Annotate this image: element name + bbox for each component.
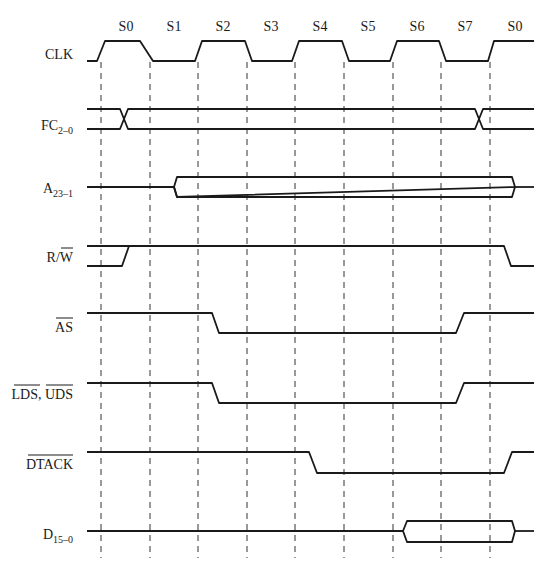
fc-waveform [87, 109, 534, 129]
data-waveform [87, 521, 534, 542]
clk-waveform [87, 41, 534, 61]
rw-waveform [87, 246, 534, 266]
state-label: S7 [458, 19, 473, 34]
dtack-waveform [87, 452, 534, 473]
state-label: S0 [508, 19, 523, 34]
signal-label-rw: R/W [47, 250, 74, 265]
state-label: S0 [119, 19, 134, 34]
state-label: S2 [216, 19, 231, 34]
state-labels: S0 S1 S2 S3 S4 S5 S6 S7 S0 [119, 19, 523, 34]
signal-label-dtack: DTACK [26, 457, 73, 472]
address-waveform [87, 177, 534, 197]
state-label: S5 [361, 19, 376, 34]
lds-uds-waveform [87, 383, 534, 403]
signal-label-clk: CLK [45, 47, 73, 62]
signal-label-as: AS [55, 320, 73, 335]
state-label: S3 [264, 19, 279, 34]
state-grid-lines [101, 62, 490, 558]
signal-label-lds-uds: LDS, UDS [12, 387, 73, 402]
as-waveform [87, 313, 534, 333]
timing-diagram: S0 S1 S2 S3 S4 S5 S6 S7 S0 CLK FC2–0 A23… [0, 0, 551, 573]
signal-labels: CLK FC2–0 A23–1 R/W AS LDS, UDS DTACK D1… [12, 47, 74, 545]
state-label: S4 [313, 19, 328, 34]
signal-label-fc: FC2–0 [41, 118, 73, 136]
state-label: S6 [410, 19, 425, 34]
state-label: S1 [167, 19, 182, 34]
signal-label-data: D15–0 [43, 527, 73, 545]
signal-label-address: A23–1 [43, 181, 73, 199]
